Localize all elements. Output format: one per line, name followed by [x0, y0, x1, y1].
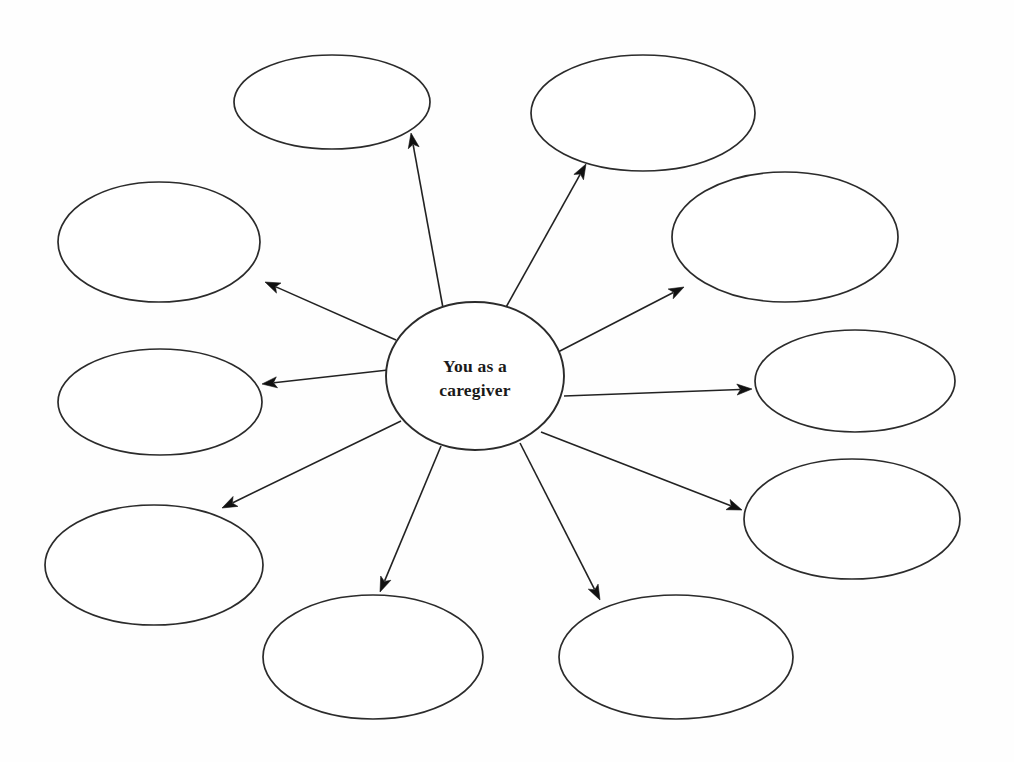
node-left-middle[interactable]	[58, 349, 262, 455]
arrow-to-top-right-shaft	[505, 174, 580, 309]
hub-node[interactable]: You as a caregiver	[386, 302, 564, 450]
node-top-right-shape[interactable]	[531, 55, 755, 171]
hub-ellipse-shape[interactable]	[386, 302, 564, 450]
mind-map-diagram: You as a caregiver	[0, 0, 1014, 762]
arrow-to-left-middle-shaft	[274, 370, 388, 383]
arrow-to-left-upper-shaft	[276, 287, 396, 340]
node-bottom-left[interactable]	[263, 595, 483, 719]
arrow-to-left-middle	[262, 370, 388, 388]
node-left-middle-shape[interactable]	[58, 349, 262, 455]
node-right-middle[interactable]	[755, 330, 955, 432]
node-right-middle-shape[interactable]	[755, 330, 955, 432]
diagram-canvas-svg: You as a caregiver	[0, 0, 1014, 762]
arrow-to-right-middle	[564, 384, 752, 396]
arrow-to-right-lower-shaft	[541, 432, 731, 506]
node-right-upper-shape[interactable]	[672, 172, 898, 302]
hub-label-line-1: You as a	[443, 356, 507, 376]
node-left-lower-shape[interactable]	[45, 505, 263, 625]
arrow-to-right-upper-shaft	[558, 293, 673, 352]
arrow-to-right-upper-head	[668, 287, 684, 299]
arrow-to-left-lower	[222, 421, 401, 508]
arrow-to-bottom-left	[380, 446, 441, 592]
arrow-to-right-middle-shaft	[564, 389, 740, 396]
arrow-to-left-upper	[265, 282, 396, 340]
arrow-to-top-right-head	[574, 164, 586, 180]
node-top-left[interactable]	[234, 55, 430, 149]
arrow-to-right-lower	[541, 432, 742, 510]
arrow-to-top-left	[408, 133, 443, 308]
arrow-to-bottom-right	[520, 443, 600, 600]
arrow-to-bottom-left-shaft	[385, 446, 441, 581]
arrow-to-left-lower-shaft	[233, 421, 401, 503]
node-right-lower-shape[interactable]	[744, 459, 960, 579]
node-left-lower[interactable]	[45, 505, 263, 625]
node-bottom-right[interactable]	[559, 595, 793, 719]
node-bottom-left-shape[interactable]	[263, 595, 483, 719]
arrow-to-right-upper	[558, 287, 684, 352]
arrow-to-top-left-shaft	[413, 145, 443, 308]
node-top-right[interactable]	[531, 55, 755, 171]
node-left-upper-shape[interactable]	[58, 182, 260, 302]
node-bottom-right-shape[interactable]	[559, 595, 793, 719]
arrow-to-bottom-right-head	[588, 584, 600, 600]
node-right-lower[interactable]	[744, 459, 960, 579]
node-left-upper[interactable]	[58, 182, 260, 302]
hub-label-line-2: caregiver	[439, 380, 510, 400]
arrow-to-top-right	[505, 164, 586, 309]
node-top-left-shape[interactable]	[234, 55, 430, 149]
arrow-to-bottom-right-shaft	[520, 443, 595, 589]
node-right-upper[interactable]	[672, 172, 898, 302]
